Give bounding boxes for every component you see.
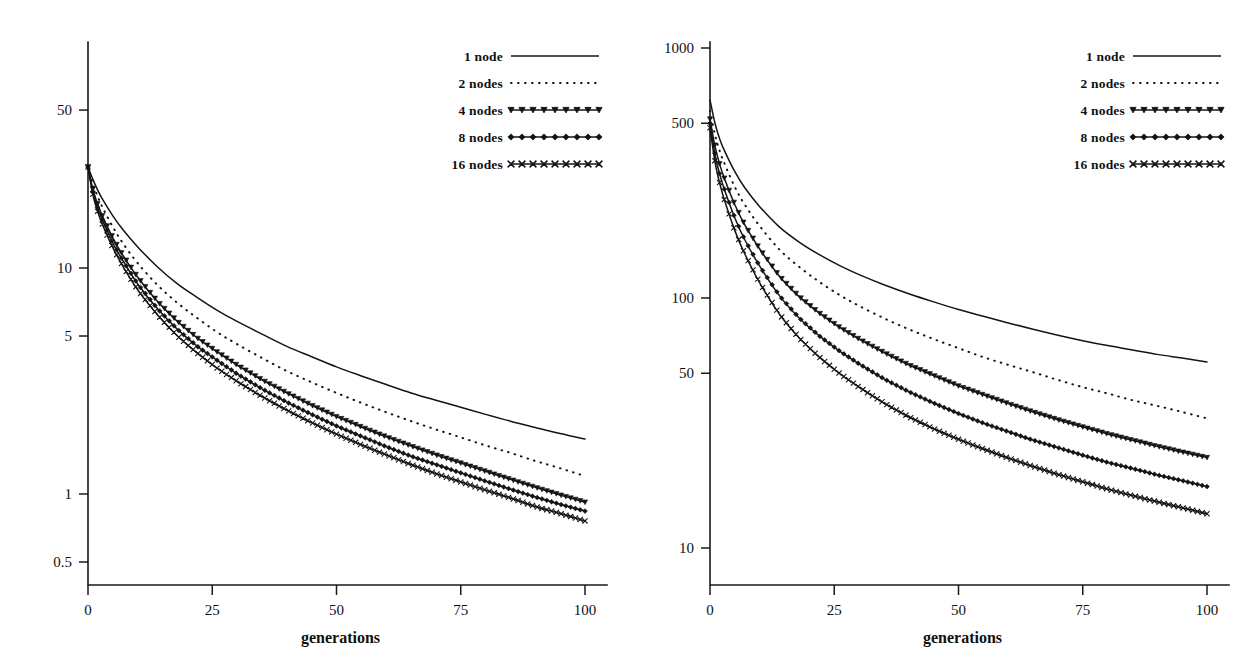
legend-label-4-nodes: 4 nodes bbox=[458, 103, 503, 118]
x-tick-label: 100 bbox=[574, 602, 597, 618]
series-line bbox=[88, 167, 585, 502]
series-markers bbox=[86, 165, 588, 514]
axis-spines bbox=[88, 42, 607, 585]
y-tick-label: 1 bbox=[65, 486, 73, 502]
x-tick-label: 75 bbox=[453, 602, 468, 618]
legend-markers-16-nodes bbox=[1130, 161, 1225, 168]
x-tick-label: 25 bbox=[827, 602, 842, 618]
series-line bbox=[88, 167, 585, 511]
chart-panel-right: 100050010050100255075100generations1 nod… bbox=[622, 0, 1244, 670]
series-line bbox=[88, 167, 585, 521]
series-1-node bbox=[88, 167, 585, 439]
legend-label-8-nodes: 8 nodes bbox=[458, 130, 503, 145]
series-line bbox=[710, 119, 1207, 458]
x-axis-title: generations bbox=[923, 629, 1002, 647]
series-line bbox=[710, 123, 1207, 486]
y-tick-label: 0.5 bbox=[53, 554, 72, 570]
legend-label-8-nodes: 8 nodes bbox=[1080, 130, 1125, 145]
x-tick-label: 50 bbox=[329, 602, 344, 618]
x-tick-label: 75 bbox=[1075, 602, 1090, 618]
legend-label-16-nodes: 16 nodes bbox=[452, 157, 504, 172]
legend-markers-4-nodes bbox=[508, 107, 602, 113]
series-line bbox=[88, 167, 585, 439]
axis-spines bbox=[710, 42, 1229, 585]
legend-markers-8-nodes bbox=[508, 134, 602, 140]
legend-label-1-node: 1 node bbox=[464, 49, 503, 64]
series-16-nodes bbox=[707, 125, 1209, 516]
legend-markers-8-nodes bbox=[1130, 134, 1224, 140]
series-4-nodes bbox=[707, 117, 1209, 460]
y-tick-label: 10 bbox=[679, 540, 694, 556]
y-tick-label: 1000 bbox=[664, 40, 694, 56]
legend-label-16-nodes: 16 nodes bbox=[1074, 157, 1126, 172]
chart-panel-left: 5010510.50255075100generations1 node2 no… bbox=[0, 0, 622, 670]
y-tick-label: 100 bbox=[672, 290, 695, 306]
series-2-nodes bbox=[710, 111, 1207, 418]
axes-group: 5010510.50255075100 bbox=[53, 42, 607, 618]
series-8-nodes bbox=[708, 121, 1210, 489]
series-group bbox=[85, 164, 587, 523]
x-tick-label: 25 bbox=[205, 602, 220, 618]
x-tick-label: 100 bbox=[1196, 602, 1219, 618]
y-tick-label: 10 bbox=[57, 260, 72, 276]
series-markers bbox=[707, 125, 1209, 516]
figure-root: 5010510.50255075100generations1 node2 no… bbox=[0, 0, 1244, 670]
x-tick-label: 0 bbox=[706, 602, 714, 618]
y-tick-label: 500 bbox=[672, 115, 695, 131]
x-tick-label: 50 bbox=[951, 602, 966, 618]
x-axis-title: generations bbox=[301, 629, 380, 647]
legend-label-1-node: 1 node bbox=[1086, 49, 1125, 64]
axes-group: 100050010050100255075100 bbox=[664, 40, 1229, 618]
plot-area-left: 5010510.50255075100generations1 node2 no… bbox=[0, 0, 622, 670]
legend: 1 node2 nodes4 nodes8 nodes16 nodes bbox=[452, 49, 603, 172]
series-16-nodes bbox=[85, 164, 587, 523]
y-tick-label: 5 bbox=[65, 328, 73, 344]
y-tick-label: 50 bbox=[679, 365, 694, 381]
series-markers bbox=[708, 121, 1210, 489]
series-4-nodes bbox=[85, 165, 587, 505]
series-markers bbox=[85, 165, 587, 505]
legend-label-2-nodes: 2 nodes bbox=[458, 76, 503, 91]
plot-area-right: 100050010050100255075100generations1 nod… bbox=[622, 0, 1244, 670]
x-tick-label: 0 bbox=[84, 602, 92, 618]
y-tick-label: 50 bbox=[57, 102, 72, 118]
series-8-nodes bbox=[86, 165, 588, 514]
series-markers bbox=[707, 117, 1209, 460]
series-line bbox=[710, 111, 1207, 418]
legend-label-4-nodes: 4 nodes bbox=[1080, 103, 1125, 118]
legend-markers-4-nodes bbox=[1130, 107, 1224, 113]
legend-label-2-nodes: 2 nodes bbox=[1080, 76, 1125, 91]
legend-markers-16-nodes bbox=[508, 161, 603, 168]
legend: 1 node2 nodes4 nodes8 nodes16 nodes bbox=[1074, 49, 1225, 172]
series-markers bbox=[85, 164, 587, 523]
